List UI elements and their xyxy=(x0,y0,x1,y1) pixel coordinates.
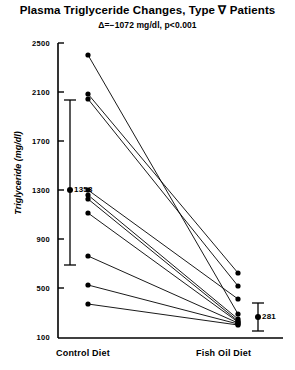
error-bar-mean-marker-control xyxy=(67,187,73,193)
patient-line-5 xyxy=(88,195,238,319)
data-point xyxy=(235,311,240,316)
paired-lines xyxy=(88,55,238,325)
patient-line-9 xyxy=(88,285,238,324)
chart-figure: Plasma Triglyceride Changes, Type ∇ Pati… xyxy=(0,0,295,370)
patient-line-3 xyxy=(88,99,238,286)
data-point xyxy=(85,187,90,192)
data-point xyxy=(85,282,90,287)
patient-line-1 xyxy=(88,55,238,314)
data-point xyxy=(85,253,90,258)
data-point xyxy=(235,322,240,327)
patient-line-6 xyxy=(88,199,238,321)
patient-line-8 xyxy=(88,256,238,323)
axes xyxy=(58,43,283,338)
fish-oil-diet-points xyxy=(235,270,240,327)
data-point xyxy=(85,96,90,101)
error-bar-control xyxy=(64,100,76,265)
patient-line-4 xyxy=(88,190,238,299)
data-point xyxy=(85,52,90,57)
data-point xyxy=(235,296,240,301)
control-diet-points xyxy=(85,52,90,306)
error-bar-mean-marker-fishoil xyxy=(255,314,261,320)
patient-line-7 xyxy=(88,213,238,322)
chart-plot-area xyxy=(0,0,295,370)
data-point xyxy=(85,210,90,215)
data-point xyxy=(235,270,240,275)
patient-line-2 xyxy=(88,94,238,273)
data-point xyxy=(85,301,90,306)
patient-line-10 xyxy=(88,304,238,325)
data-point xyxy=(85,91,90,96)
data-point xyxy=(85,196,90,201)
data-point xyxy=(235,283,240,288)
